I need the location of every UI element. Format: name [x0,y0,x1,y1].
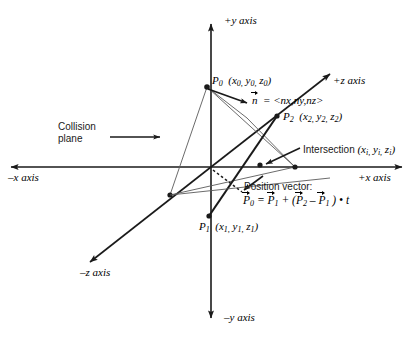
p2-vector-symbol: P [296,194,303,207]
collision-plane-label: Collision plane [58,121,96,144]
p0-symbol: P0 [212,74,223,86]
axis-label-z-positive: +z axis [333,74,365,87]
p1-vector-symbol: P [268,194,275,207]
p2-coordinates: (x2, y2, z2) [296,110,342,122]
collision-plane-line1: Collision [58,121,96,133]
p1-symbol: P1 [199,220,210,232]
p1b-vector-symbol: P [318,194,325,207]
point-label-p0: P0 (x0, y0, z0) [212,74,271,88]
dot-product-t: ) • t [329,194,349,206]
p0-vector-symbol: P [243,194,250,207]
minus-sign: – [310,194,316,206]
axis-label-y-positive: +y axis [224,14,257,27]
normal-vector-label: n = <nx,ny,nz> [252,94,323,107]
point-label-p2: P2 (x2, y2, z2) [283,110,342,124]
axis-label-y-negative: –y axis [224,311,255,324]
p2-symbol: P2 [283,110,294,122]
point-label-p1: P1 (x1, y1, z1) [199,220,258,234]
position-vector-equation: P0 = P1 + (P2 – P1 ) • t [243,194,349,208]
equals-sign: = [257,194,265,206]
diagram-svg [0,0,412,344]
intersection-text: Intersection [303,144,355,155]
axis-label-x-negative: –x axis [8,171,39,184]
plus-sign: + ( [281,194,295,206]
collision-plane-line2: plane [58,133,96,145]
axis-label-z-negative: –z axis [80,266,110,279]
diagram-canvas: +y axis –y axis +x axis –x axis +z axis … [0,0,412,344]
n-vector-symbol: n [252,94,258,107]
normal-vector-expression: = <nx,ny,nz> [260,94,323,106]
p1-coordinates: (x1, y1, z1) [212,220,258,232]
intersection-coordinates: (xi, yi, zi) [355,143,395,155]
p0-coordinates: (x0, y0, z0) [225,74,271,86]
axis-label-x-positive: +x axis [358,171,391,184]
intersection-label: Intersection (xi, yi, zi) [303,139,395,157]
